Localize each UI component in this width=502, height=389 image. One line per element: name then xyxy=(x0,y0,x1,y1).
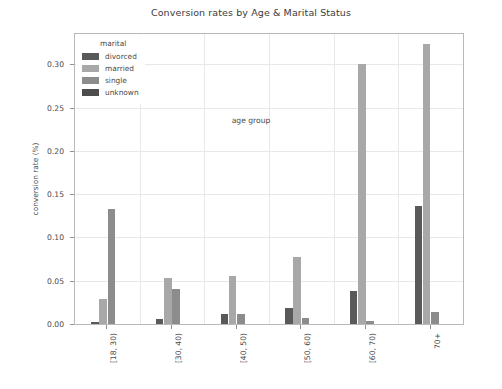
legend-item-unknown[interactable]: unknown xyxy=(82,87,139,98)
bar-divorced xyxy=(91,322,99,324)
bar-divorced xyxy=(221,314,229,324)
x-tick-mark xyxy=(106,325,107,329)
x-tick-mark xyxy=(365,325,366,329)
legend-swatch-icon xyxy=(82,65,99,72)
bar-divorced xyxy=(415,206,423,324)
x-tick-label: 70+ xyxy=(433,333,442,349)
legend-item-label: divorced xyxy=(105,52,137,61)
y-tick-label: 0.30 xyxy=(47,60,64,69)
x-tick-label: [30, 40) xyxy=(174,333,183,363)
bar-married xyxy=(164,278,172,324)
bar-group xyxy=(285,34,317,324)
bar-single xyxy=(172,289,180,324)
bar-group xyxy=(350,34,382,324)
x-tick-label: [40, 50) xyxy=(239,333,248,363)
legend-item-label: single xyxy=(105,76,127,85)
legend-rows: divorcedmarriedsingleunknown xyxy=(82,51,139,98)
x-tick-label: [50, 60) xyxy=(303,333,312,363)
bar-married xyxy=(358,64,366,324)
chart-title: Conversion rates by Age & Marital Status xyxy=(0,7,502,18)
bar-divorced xyxy=(285,308,293,324)
legend-item-married[interactable]: married xyxy=(82,63,139,74)
x-axis: [18, 30)[30, 40)[40, 50)[50, 60)[60, 70)… xyxy=(74,325,464,389)
x-tick-mark xyxy=(236,325,237,329)
chart-figure: Conversion rates by Age & Marital Status… xyxy=(0,0,502,389)
legend-swatch-icon xyxy=(82,89,99,96)
x-tick-mark xyxy=(300,325,301,329)
bar-group xyxy=(221,34,253,324)
y-tick-label: 0.20 xyxy=(47,146,64,155)
bar-single xyxy=(108,209,116,324)
bar-group xyxy=(156,34,188,324)
x-tick-mark xyxy=(171,325,172,329)
bar-single xyxy=(237,314,245,324)
y-tick-label: 0.25 xyxy=(47,103,64,112)
x-tick-label: [18, 30) xyxy=(109,333,118,363)
legend-swatch-icon xyxy=(82,77,99,84)
bar-group xyxy=(415,34,447,324)
bar-married xyxy=(423,44,431,324)
y-axis: 0.000.050.100.150.200.250.30 xyxy=(0,33,74,325)
legend-title: marital xyxy=(100,39,139,48)
x-tick-mark xyxy=(430,325,431,329)
bar-divorced xyxy=(350,291,358,324)
legend-item-label: married xyxy=(105,64,134,73)
y-tick-label: 0.05 xyxy=(47,276,64,285)
bar-single xyxy=(431,312,439,324)
legend-swatch-icon xyxy=(82,53,99,60)
bar-married xyxy=(293,257,301,324)
legend: marital divorcedmarriedsingleunknown xyxy=(76,35,145,104)
bar-married xyxy=(99,299,107,324)
legend-item-label: unknown xyxy=(105,88,139,97)
legend-item-single[interactable]: single xyxy=(82,75,139,86)
x-axis-label: age group xyxy=(0,116,502,125)
bar-single xyxy=(366,321,374,324)
legend-item-divorced[interactable]: divorced xyxy=(82,51,139,62)
bar-single xyxy=(302,318,310,324)
bar-married xyxy=(229,276,237,324)
bar-divorced xyxy=(156,319,164,324)
x-tick-label: [60, 70) xyxy=(368,333,377,363)
y-tick-label: 0.15 xyxy=(47,190,64,199)
y-tick-label: 0.10 xyxy=(47,233,64,242)
y-tick-label: 0.00 xyxy=(47,320,64,329)
